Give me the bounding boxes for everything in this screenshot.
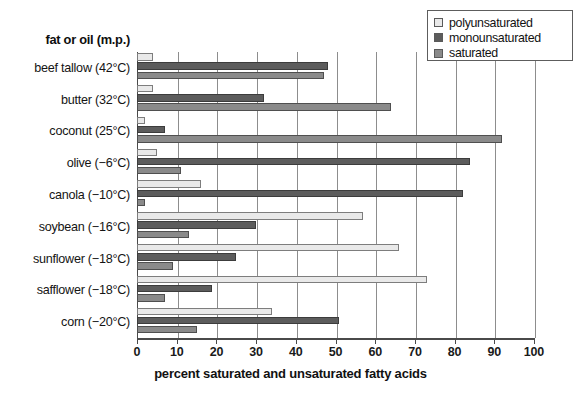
category-label: coconut (25°C) xyxy=(0,124,130,138)
bar-row: sunflower (−18°C) xyxy=(0,243,581,275)
bar-row: canola (−10°C) xyxy=(0,179,581,211)
bar-monounsaturated xyxy=(137,221,256,228)
bar-group xyxy=(137,179,581,211)
x-tick xyxy=(494,338,495,344)
bar-saturated xyxy=(137,294,165,301)
x-tick xyxy=(455,338,456,344)
legend-swatch-polyunsaturated xyxy=(434,18,443,27)
bar-saturated xyxy=(137,72,324,79)
legend-label-saturated: saturated xyxy=(449,46,498,60)
bar-polyunsaturated xyxy=(137,117,145,124)
x-tick-label: 0 xyxy=(117,345,157,359)
x-tick-label: 40 xyxy=(276,345,316,359)
x-tick xyxy=(256,338,257,344)
x-tick-label: 50 xyxy=(316,345,356,359)
x-tick xyxy=(336,338,337,344)
bar-saturated xyxy=(137,135,502,142)
bar-group xyxy=(137,211,581,243)
x-tick xyxy=(177,338,178,344)
bar-group xyxy=(137,84,581,116)
bar-group xyxy=(137,243,581,275)
axis-header-label: fat or oil (m.p.) xyxy=(0,32,130,47)
bar-monounsaturated xyxy=(137,253,236,260)
bar-polyunsaturated xyxy=(137,149,157,156)
category-label: sunflower (−18°C) xyxy=(0,252,130,266)
x-tick-label: 100 xyxy=(514,345,554,359)
bar-saturated xyxy=(137,103,391,110)
category-label: olive (−6°C) xyxy=(0,156,130,170)
legend-item-monounsaturated: monounsaturated xyxy=(434,30,572,45)
x-tick xyxy=(375,338,376,344)
bar-row: corn (−20°C) xyxy=(0,306,581,338)
bar-monounsaturated xyxy=(137,158,470,165)
bar-monounsaturated xyxy=(137,62,328,69)
legend-swatch-saturated xyxy=(434,49,443,58)
x-tick xyxy=(534,338,535,344)
x-tick-label: 30 xyxy=(236,345,276,359)
x-tick-label: 70 xyxy=(395,345,435,359)
bar-row: soybean (−16°C) xyxy=(0,211,581,243)
category-label: safflower (−18°C) xyxy=(0,283,130,297)
bar-monounsaturated xyxy=(137,317,339,324)
bar-monounsaturated xyxy=(137,126,165,133)
bar-saturated xyxy=(137,262,173,269)
bar-polyunsaturated xyxy=(137,53,153,60)
bar-saturated xyxy=(137,199,145,206)
x-tick-label: 10 xyxy=(157,345,197,359)
bar-monounsaturated xyxy=(137,285,212,292)
bar-polyunsaturated xyxy=(137,180,201,187)
chart-root: fat or oil (m.p.) beef tallow (42°C)butt… xyxy=(0,0,581,394)
x-axis-title: percent saturated and unsaturated fatty … xyxy=(0,366,581,381)
bar-row: olive (−6°C) xyxy=(0,147,581,179)
bar-group xyxy=(137,116,581,148)
bar-polyunsaturated xyxy=(137,244,399,251)
bar-saturated xyxy=(137,326,197,333)
x-tick xyxy=(137,338,138,344)
legend-item-polyunsaturated: polyunsaturated xyxy=(434,15,572,30)
legend-item-saturated: saturated xyxy=(434,46,572,61)
bar-monounsaturated xyxy=(137,94,264,101)
x-tick xyxy=(415,338,416,344)
legend-swatch-monounsaturated xyxy=(434,33,443,42)
x-tick-label: 90 xyxy=(474,345,514,359)
x-tick-label: 60 xyxy=(355,345,395,359)
legend-label-polyunsaturated: polyunsaturated xyxy=(449,16,533,30)
bar-monounsaturated xyxy=(137,190,463,197)
bar-group xyxy=(137,306,581,338)
category-label: beef tallow (42°C) xyxy=(0,61,130,75)
bar-group xyxy=(137,275,581,307)
category-label: butter (32°C) xyxy=(0,93,130,107)
bar-row: safflower (−18°C) xyxy=(0,275,581,307)
category-label: canola (−10°C) xyxy=(0,188,130,202)
x-tick xyxy=(216,338,217,344)
bar-polyunsaturated xyxy=(137,85,153,92)
bar-group xyxy=(137,147,581,179)
bar-saturated xyxy=(137,167,181,174)
bar-saturated xyxy=(137,231,189,238)
legend-label-monounsaturated: monounsaturated xyxy=(449,31,541,45)
bar-polyunsaturated xyxy=(137,212,363,219)
x-tick xyxy=(296,338,297,344)
legend: polyunsaturated monounsaturated saturate… xyxy=(427,10,573,61)
category-label: soybean (−16°C) xyxy=(0,220,130,234)
bar-polyunsaturated xyxy=(137,276,427,283)
bar-polyunsaturated xyxy=(137,308,272,315)
x-tick-label: 20 xyxy=(196,345,236,359)
category-label: corn (−20°C) xyxy=(0,315,130,329)
bar-row: coconut (25°C) xyxy=(0,116,581,148)
x-tick-label: 80 xyxy=(435,345,475,359)
bar-row: butter (32°C) xyxy=(0,84,581,116)
